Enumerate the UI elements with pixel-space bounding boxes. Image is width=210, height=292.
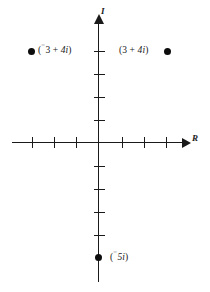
real-axis-tick--1 — [76, 137, 77, 148]
imaginary-axis-tick-4 — [94, 51, 105, 52]
plot-point-label-3-plus-4i: (3 + 4i) — [119, 45, 148, 55]
label-imaginary-part: 5i — [117, 252, 125, 262]
imaginary-axis-tick--4 — [94, 235, 105, 236]
imaginary-axis-label: I — [101, 6, 105, 16]
plot-point-neg5i — [95, 254, 102, 261]
imaginary-axis-tick--2 — [94, 189, 105, 190]
imaginary-axis-tick-1 — [94, 120, 105, 121]
complex-plane-figure: R I (⁻3 + 4i) (3 + 4i) (⁻5i) — [0, 0, 210, 292]
label-close-paren: ) — [68, 45, 71, 55]
real-axis-tick-3 — [166, 137, 167, 148]
real-axis-tick--2 — [54, 137, 55, 148]
real-axis-arrow-icon — [182, 138, 191, 148]
imaginary-axis-tick--3 — [94, 212, 105, 213]
plot-point-label-neg5i: (⁻5i) — [110, 252, 128, 262]
real-axis-tick-2 — [144, 137, 145, 148]
plot-point-label-neg3-plus-4i: (⁻3 + 4i) — [38, 45, 72, 55]
real-axis-tick--3 — [32, 137, 33, 148]
imaginary-axis-line — [98, 22, 99, 282]
label-close-paren: ) — [145, 45, 148, 55]
real-axis-label: R — [192, 133, 198, 143]
label-operator: + — [50, 45, 60, 55]
label-imaginary-part: 4i — [138, 45, 146, 55]
real-axis-tick-1 — [122, 137, 123, 148]
label-close-paren: ) — [125, 252, 128, 262]
label-operator: + — [127, 45, 137, 55]
imaginary-axis-tick-2 — [94, 97, 105, 98]
imaginary-axis-tick--1 — [94, 166, 105, 167]
plot-point-neg3-plus-4i — [28, 48, 35, 55]
imaginary-axis-tick-3 — [94, 74, 105, 75]
plot-point-3-plus-4i — [164, 48, 171, 55]
